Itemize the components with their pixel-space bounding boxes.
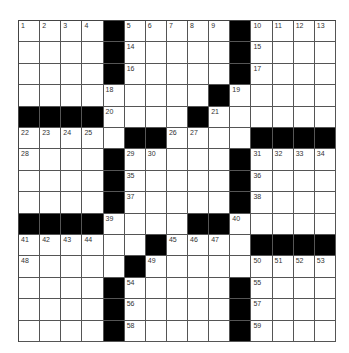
grid-cell[interactable] xyxy=(294,278,315,299)
grid-cell[interactable] xyxy=(188,149,209,170)
grid-cell[interactable] xyxy=(40,42,61,63)
grid-cell[interactable]: 44 xyxy=(82,235,103,256)
grid-cell[interactable] xyxy=(209,278,230,299)
grid-cell[interactable] xyxy=(146,214,167,235)
grid-cell[interactable] xyxy=(188,299,209,320)
grid-cell[interactable] xyxy=(188,192,209,213)
grid-cell[interactable]: 35 xyxy=(125,171,146,192)
grid-cell[interactable] xyxy=(315,85,336,106)
grid-cell[interactable] xyxy=(167,64,188,85)
grid-cell[interactable] xyxy=(82,85,103,106)
grid-cell[interactable] xyxy=(230,107,251,128)
grid-cell[interactable]: 19 xyxy=(230,85,251,106)
grid-cell[interactable]: 36 xyxy=(251,171,272,192)
grid-cell[interactable]: 51 xyxy=(273,256,294,277)
grid-cell[interactable] xyxy=(61,299,82,320)
grid-cell[interactable] xyxy=(40,171,61,192)
grid-cell[interactable] xyxy=(82,256,103,277)
grid-cell[interactable] xyxy=(188,171,209,192)
grid-cell[interactable]: 22 xyxy=(19,128,40,149)
grid-cell[interactable] xyxy=(40,85,61,106)
grid-cell[interactable]: 4 xyxy=(82,21,103,42)
grid-cell[interactable] xyxy=(315,42,336,63)
grid-cell[interactable]: 1 xyxy=(19,21,40,42)
grid-cell[interactable] xyxy=(104,256,125,277)
grid-cell[interactable] xyxy=(315,321,336,342)
grid-cell[interactable] xyxy=(125,107,146,128)
grid-cell[interactable] xyxy=(209,299,230,320)
grid-cell[interactable]: 57 xyxy=(251,299,272,320)
grid-cell[interactable] xyxy=(209,42,230,63)
grid-cell[interactable]: 54 xyxy=(125,278,146,299)
grid-cell[interactable] xyxy=(146,321,167,342)
grid-cell[interactable] xyxy=(315,214,336,235)
grid-cell[interactable] xyxy=(209,171,230,192)
grid-cell[interactable] xyxy=(188,256,209,277)
grid-cell[interactable] xyxy=(209,128,230,149)
grid-cell[interactable] xyxy=(40,192,61,213)
grid-cell[interactable]: 26 xyxy=(167,128,188,149)
grid-cell[interactable] xyxy=(19,42,40,63)
grid-cell[interactable] xyxy=(273,42,294,63)
grid-cell[interactable] xyxy=(188,85,209,106)
grid-cell[interactable] xyxy=(315,171,336,192)
grid-cell[interactable] xyxy=(188,64,209,85)
grid-cell[interactable] xyxy=(19,171,40,192)
grid-cell[interactable] xyxy=(146,64,167,85)
grid-cell[interactable] xyxy=(315,107,336,128)
grid-cell[interactable]: 23 xyxy=(40,128,61,149)
grid-cell[interactable]: 55 xyxy=(251,278,272,299)
grid-cell[interactable] xyxy=(273,321,294,342)
grid-cell[interactable]: 11 xyxy=(273,21,294,42)
grid-cell[interactable]: 49 xyxy=(146,256,167,277)
grid-cell[interactable] xyxy=(125,85,146,106)
grid-cell[interactable]: 46 xyxy=(188,235,209,256)
grid-cell[interactable]: 6 xyxy=(146,21,167,42)
grid-cell[interactable]: 20 xyxy=(104,107,125,128)
grid-cell[interactable]: 28 xyxy=(19,149,40,170)
grid-cell[interactable] xyxy=(82,192,103,213)
grid-cell[interactable]: 3 xyxy=(61,21,82,42)
grid-cell[interactable] xyxy=(294,42,315,63)
grid-cell[interactable]: 56 xyxy=(125,299,146,320)
grid-cell[interactable] xyxy=(146,192,167,213)
grid-cell[interactable] xyxy=(273,214,294,235)
grid-cell[interactable] xyxy=(188,278,209,299)
grid-cell[interactable]: 17 xyxy=(251,64,272,85)
grid-cell[interactable] xyxy=(146,299,167,320)
grid-cell[interactable] xyxy=(251,107,272,128)
grid-cell[interactable] xyxy=(188,321,209,342)
grid-cell[interactable] xyxy=(61,85,82,106)
grid-cell[interactable] xyxy=(146,171,167,192)
grid-cell[interactable] xyxy=(167,214,188,235)
grid-cell[interactable]: 59 xyxy=(251,321,272,342)
grid-cell[interactable] xyxy=(294,171,315,192)
grid-cell[interactable] xyxy=(125,235,146,256)
grid-cell[interactable]: 52 xyxy=(294,256,315,277)
grid-cell[interactable] xyxy=(167,107,188,128)
grid-cell[interactable]: 7 xyxy=(167,21,188,42)
grid-cell[interactable]: 42 xyxy=(40,235,61,256)
grid-cell[interactable] xyxy=(61,321,82,342)
grid-cell[interactable] xyxy=(82,42,103,63)
grid-cell[interactable] xyxy=(61,256,82,277)
grid-cell[interactable] xyxy=(209,192,230,213)
grid-cell[interactable]: 16 xyxy=(125,64,146,85)
grid-cell[interactable] xyxy=(104,128,125,149)
grid-cell[interactable] xyxy=(209,256,230,277)
grid-cell[interactable]: 24 xyxy=(61,128,82,149)
grid-cell[interactable] xyxy=(19,192,40,213)
grid-cell[interactable] xyxy=(61,149,82,170)
grid-cell[interactable] xyxy=(294,214,315,235)
grid-cell[interactable] xyxy=(230,235,251,256)
grid-cell[interactable]: 48 xyxy=(19,256,40,277)
grid-cell[interactable] xyxy=(315,299,336,320)
grid-cell[interactable] xyxy=(294,299,315,320)
grid-cell[interactable] xyxy=(167,321,188,342)
grid-cell[interactable]: 40 xyxy=(230,214,251,235)
grid-cell[interactable] xyxy=(82,171,103,192)
grid-cell[interactable] xyxy=(273,85,294,106)
grid-cell[interactable]: 25 xyxy=(82,128,103,149)
grid-cell[interactable] xyxy=(294,85,315,106)
grid-cell[interactable] xyxy=(40,278,61,299)
